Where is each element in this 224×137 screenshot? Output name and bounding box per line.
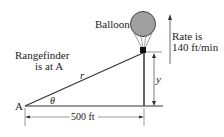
rate-label-line2: 140 ft/min [172,41,218,53]
height-label: y [156,73,161,85]
rate-arrowhead [168,14,172,20]
point-a-label: A [15,100,23,112]
arrowhead-right [139,116,144,119]
rangefinder-label-line2: is at A [35,60,63,72]
arrowhead-up [152,53,156,58]
balloon-basket [140,47,146,53]
arrowhead-down [152,101,156,106]
balloon-circle [131,12,156,37]
hypotenuse-label: r [80,69,84,81]
balloon-label: Balloon [95,18,130,30]
angle-label: θ [50,95,55,107]
arrowhead-left [25,116,30,119]
distance-label: 500 ft [71,111,95,123]
